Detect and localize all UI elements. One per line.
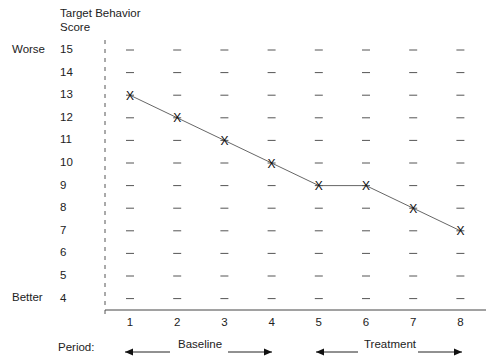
plot-area: XXXXXXXX (0, 0, 489, 364)
baseline-label: Baseline (178, 338, 222, 350)
period-label: Period: (58, 341, 94, 353)
baseline-right-arrow-head-icon (264, 349, 272, 356)
x-marker-icon: X (173, 111, 181, 125)
x-marker-icon: X (362, 179, 370, 193)
x-marker-icon: X (409, 202, 417, 216)
x-marker-icon: X (456, 224, 464, 238)
x-marker-icon: X (126, 89, 134, 103)
x-marker-icon: X (268, 157, 276, 171)
x-marker-icon: X (315, 179, 323, 193)
treatment-left-arrow-head-icon (316, 349, 324, 356)
baseline-left-arrow-head-icon (125, 349, 133, 356)
treatment-right-arrow-head-icon (454, 349, 462, 356)
x-marker-icon: X (220, 134, 228, 148)
treatment-label: Treatment (364, 338, 416, 350)
